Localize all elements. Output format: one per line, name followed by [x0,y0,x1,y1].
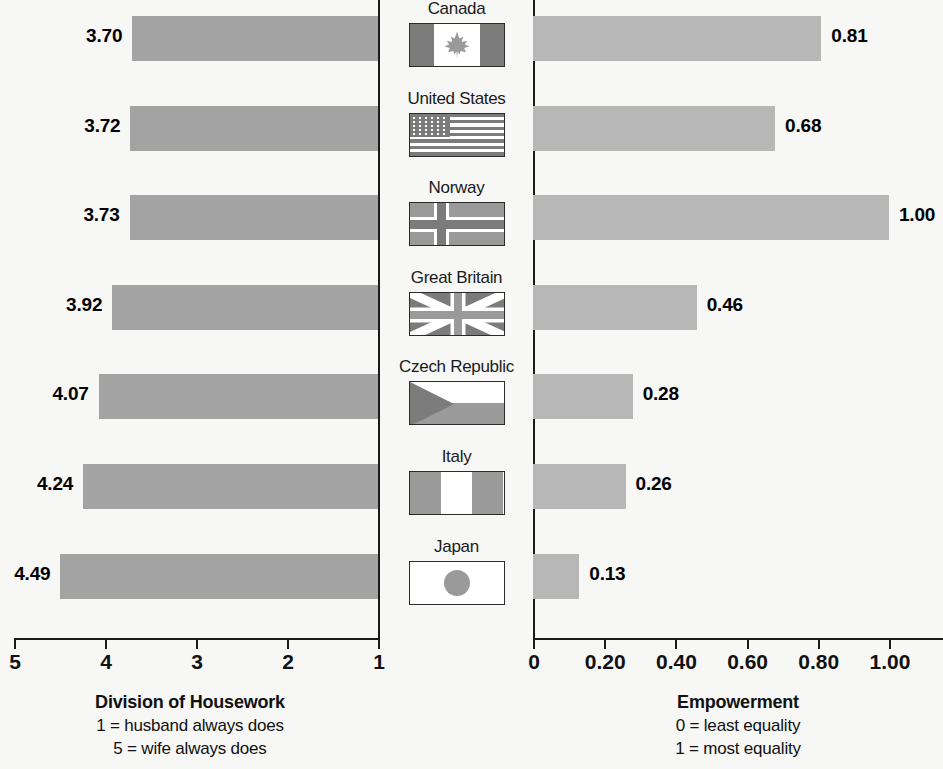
us-star [419,117,421,119]
empowerment-bar[interactable] [533,464,626,509]
housework-bar[interactable] [130,106,378,151]
housework-value-label: 3.73 [52,204,120,226]
us-star [413,117,415,119]
empowerment-tick-label: 0.60 [727,650,768,674]
flag-great-britain-icon [409,292,505,336]
maple-leaf-icon [442,28,472,62]
us-star [443,133,445,135]
empowerment-tick [604,640,606,649]
country-name-label: Canada [380,0,533,19]
empowerment-value-label: 0.13 [589,563,625,585]
us-stripe [410,152,504,155]
housework-value-label: 4.49 [0,563,50,585]
country-column: CanadaUnited StatesNorwayGreat BritainCz… [380,0,533,640]
us-star [431,129,433,131]
us-star [413,133,415,135]
housework-bar[interactable] [112,285,378,330]
empowerment-caption-title: Empowerment [533,690,943,714]
us-star [437,117,439,119]
chart-figure: 3.703.723.733.924.074.244.49 CanadaUnite… [0,0,943,769]
empowerment-value-label: 0.46 [707,294,743,316]
country-entry: Japan [380,537,533,605]
us-star [413,121,415,123]
us-star [419,129,421,131]
norway-dark-h [410,220,504,229]
empowerment-tick [675,640,677,649]
empowerment-bar[interactable] [533,374,633,419]
empowerment-value-label: 0.28 [643,383,679,405]
housework-bar[interactable] [60,554,378,599]
housework-bar[interactable] [130,195,378,240]
country-name-label: United States [380,89,533,109]
empowerment-tick-label: 0.20 [585,650,626,674]
housework-tick [105,640,107,649]
housework-tick-label: 3 [191,650,203,674]
empowerment-tick-label: 0 [528,650,540,674]
empowerment-tick [818,640,820,649]
us-star [437,129,439,131]
us-star [437,121,439,123]
empowerment-bar[interactable] [533,195,889,240]
us-star [413,129,415,131]
us-star [425,121,427,123]
us-star [431,133,433,135]
country-entry: Italy [380,447,533,515]
empowerment-tick [889,640,891,649]
canada-right-band [480,24,504,66]
union-jack-saltire [410,293,505,336]
us-star [425,117,427,119]
housework-bar[interactable] [83,464,378,509]
us-star [419,125,421,127]
us-star [419,133,421,135]
housework-caption-line-2: 5 = wife always does [0,737,380,760]
empowerment-bar[interactable] [533,106,775,151]
italy-mid-band [441,472,472,514]
us-star [431,125,433,127]
housework-bar[interactable] [99,374,378,419]
housework-value-label: 4.07 [21,383,89,405]
flag-united-states-icon [409,113,505,157]
housework-tick-label: 2 [282,650,294,674]
empowerment-value-label: 0.68 [785,115,821,137]
flag-italy-icon [409,471,505,515]
flag-norway-icon [409,202,505,246]
housework-tick-label: 4 [100,650,112,674]
country-name-label: Czech Republic [380,357,533,377]
country-name-label: Italy [380,447,533,467]
housework-value-label: 3.92 [34,294,102,316]
us-star [425,129,427,131]
housework-caption-line-1: 1 = husband always does [0,714,380,737]
flag-japan-icon [409,561,505,605]
italy-left-band [410,472,441,514]
empowerment-panel: 0.810.681.000.460.280.260.13 [533,0,943,640]
empowerment-bar[interactable] [533,554,579,599]
us-star [443,125,445,127]
us-star [443,121,445,123]
empowerment-value-label: 0.26 [636,473,672,495]
housework-value-label: 4.24 [5,473,73,495]
us-star [425,125,427,127]
empowerment-tick [747,640,749,649]
country-entry: Czech Republic [380,357,533,425]
housework-tick [14,640,16,649]
us-star [437,125,439,127]
japan-sun-disc [444,570,470,596]
empowerment-caption: Empowerment 0 = least equality 1 = most … [533,690,943,760]
housework-value-label: 3.72 [52,115,120,137]
country-entry: Norway [380,178,533,246]
empowerment-tick [533,640,535,649]
empowerment-caption-line-2: 1 = most equality [533,737,943,760]
empowerment-bar[interactable] [533,285,697,330]
empowerment-caption-line-1: 0 = least equality [533,714,943,737]
flag-canada-icon [409,23,505,67]
housework-bar[interactable] [132,16,378,61]
empowerment-bar[interactable] [533,16,821,61]
us-star [431,121,433,123]
housework-panel: 3.703.723.733.924.074.244.49 [0,0,380,640]
country-entry: Canada [380,0,533,67]
empowerment-horizontal-axis [533,638,943,640]
housework-tick [196,640,198,649]
housework-value-label: 3.70 [54,25,122,47]
housework-tick [287,640,289,649]
us-star [419,121,421,123]
